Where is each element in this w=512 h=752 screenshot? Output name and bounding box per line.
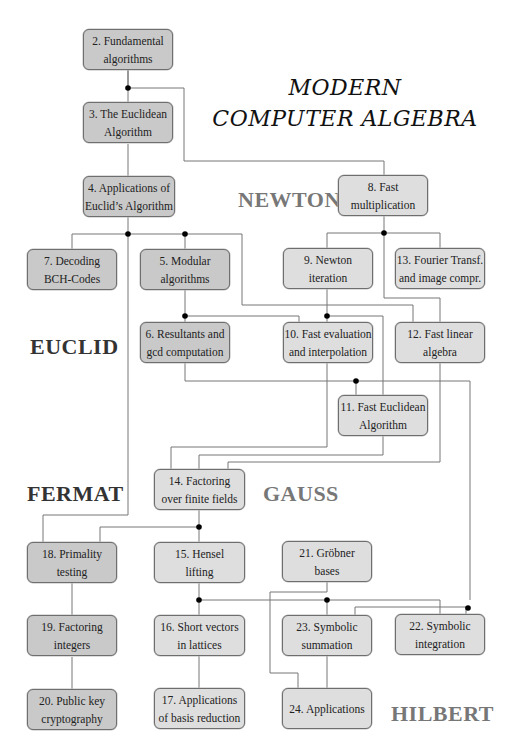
junction-dot: [125, 85, 131, 91]
chapter-15-box[interactable]: 15. Hensel lifting: [154, 542, 245, 583]
chapter-label: iteration: [309, 269, 347, 287]
chapter-label: 12. Fast linear: [407, 325, 472, 343]
chapter-label: and interpolation: [289, 343, 367, 361]
chapter-label: lifting: [185, 563, 213, 581]
chapter-label: 20. Public key: [39, 692, 105, 710]
chapter-label: 6. Resultants and: [146, 325, 225, 343]
diagram-title: MODERN COMPUTER ALGEBRA: [210, 72, 480, 134]
junction-dot: [381, 230, 387, 236]
chapter-label: cryptography: [41, 710, 102, 728]
chapter-label: algorithms: [160, 270, 209, 288]
chapter-label: 14. Factoring: [169, 472, 230, 490]
chapter-label: 8. Fast: [368, 178, 399, 196]
chapter-9-box[interactable]: 9. Newton iteration: [283, 248, 373, 289]
chapter-2-box[interactable]: 2. Fundamental algorithms: [83, 29, 173, 70]
chapter-21-box[interactable]: 21. Gröbner bases: [282, 541, 372, 582]
chapter-22-box[interactable]: 22. Symbolic integration: [395, 614, 485, 655]
junction-dot: [324, 313, 330, 319]
chapter-label: integers: [54, 636, 90, 654]
chapter-16-box[interactable]: 16. Short vectors in lattices: [154, 615, 245, 656]
chapter-3-box[interactable]: 3. The Euclidean Algorithm: [83, 102, 173, 143]
chapter-17-box[interactable]: 17. Applications of basis reduction: [154, 688, 245, 729]
chapter-10-box[interactable]: 10. Fast evaluation and interpolation: [283, 322, 373, 363]
chapter-label: 10. Fast evaluation: [284, 325, 371, 343]
chapter-label: 13. Fourier Transf.: [397, 251, 483, 269]
chapter-11-box[interactable]: 11. Fast Euclidean Algorithm: [338, 395, 428, 436]
chapter-label: Euclid’s Algorithm: [85, 197, 173, 215]
chapter-label: 15. Hensel: [175, 545, 224, 563]
line-11-14: [199, 436, 383, 469]
chapter-label: 3. The Euclidean: [89, 105, 167, 123]
chapter-label: of basis reduction: [159, 709, 241, 727]
chapter-23-box[interactable]: 23. Symbolic summation: [282, 615, 372, 656]
junction-dot: [196, 597, 202, 603]
chapter-label: 24. Applications: [289, 700, 364, 718]
chapter-13-box[interactable]: 13. Fourier Transf. and image compr.: [395, 248, 485, 289]
chapter-label: 5. Modular: [159, 252, 210, 270]
chapter-5-box[interactable]: 5. Modular algorithms: [140, 249, 230, 290]
chapter-label: summation: [301, 636, 352, 654]
chapter-label: bases: [315, 562, 340, 580]
chapter-label: 23. Symbolic: [296, 618, 357, 636]
chapter-label: 4. Applications of: [88, 179, 170, 197]
junction-dot: [465, 605, 471, 611]
title-line-2: COMPUTER ALGEBRA: [210, 103, 480, 134]
chapter-7-box[interactable]: 7. Decoding BCH-Codes: [27, 249, 117, 290]
chapter-14-box[interactable]: 14. Factoring over finite fields: [154, 469, 245, 510]
chapter-label: integration: [415, 635, 465, 653]
line-14-18: [100, 527, 199, 542]
chapter-dependency-diagram: MODERN COMPUTER ALGEBRA NEWTON EUCLID FE…: [0, 0, 512, 752]
chapter-label: 17. Applications: [162, 691, 237, 709]
chapter-label: algorithms: [103, 50, 152, 68]
chapter-label: 16. Short vectors: [160, 618, 238, 636]
chapter-label: 11. Fast Euclidean: [341, 398, 426, 416]
chapter-20-box[interactable]: 20. Public key cryptography: [27, 689, 117, 730]
chapter-label: 21. Gröbner: [299, 544, 355, 562]
chapter-label: algebra: [423, 343, 457, 361]
heading-hilbert: HILBERT: [391, 701, 494, 727]
chapter-4-box[interactable]: 4. Applications of Euclid’s Algorithm: [83, 176, 175, 217]
heading-euclid: EUCLID: [30, 334, 119, 360]
chapter-label: 7. Decoding: [44, 252, 100, 270]
chapter-label: 2. Fundamental: [92, 32, 164, 50]
chapter-label: gcd computation: [147, 343, 224, 361]
line-10-14: [171, 363, 327, 469]
junction-dot: [182, 231, 188, 237]
chapter-label: multiplication: [351, 196, 416, 214]
chapter-label: Algorithm: [104, 123, 152, 141]
junction-dot: [196, 524, 202, 530]
chapter-label: 19. Factoring: [41, 618, 102, 636]
chapter-label: 9. Newton: [304, 251, 352, 269]
title-line-1: MODERN: [210, 72, 480, 103]
chapter-12-box[interactable]: 12. Fast linear algebra: [395, 322, 485, 363]
junction-dot: [125, 231, 131, 237]
chapter-label: 18. Primality: [42, 545, 102, 563]
chapter-label: BCH-Codes: [44, 270, 100, 288]
chapter-label: and image compr.: [399, 269, 481, 287]
chapter-18-box[interactable]: 18. Primality testing: [27, 542, 117, 583]
chapter-label: Algorithm: [359, 416, 407, 434]
junction-dot: [182, 313, 188, 319]
heading-newton: NEWTON: [238, 187, 341, 213]
chapter-label: in lattices: [177, 636, 221, 654]
heading-fermat: FERMAT: [27, 481, 124, 507]
heading-gauss: GAUSS: [263, 481, 339, 507]
junction-dot: [353, 378, 359, 384]
chapter-label: over finite fields: [161, 490, 237, 508]
chapter-24-box[interactable]: 24. Applications: [282, 688, 372, 729]
chapter-label: 22. Symbolic: [409, 617, 470, 635]
chapter-8-box[interactable]: 8. Fast multiplication: [338, 175, 428, 216]
chapter-label: testing: [57, 563, 88, 581]
chapter-19-box[interactable]: 19. Factoring integers: [27, 615, 117, 656]
junction-dot: [324, 597, 330, 603]
chapter-6-box[interactable]: 6. Resultants and gcd computation: [140, 322, 230, 363]
